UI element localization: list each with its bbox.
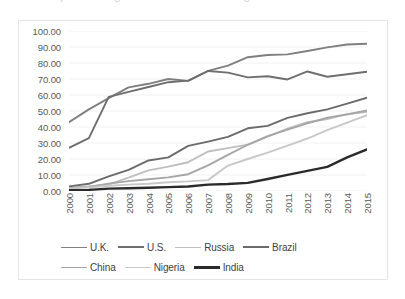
y-axis-tick-label: 100.00 xyxy=(33,26,61,37)
x-axis-tick-label: 2015 xyxy=(362,193,373,214)
legend-label: Russia xyxy=(204,242,234,253)
y-axis-tick-label: 80.00 xyxy=(38,58,61,69)
x-axis-tick-label: 2002 xyxy=(104,193,115,214)
y-axis-tick-label: 30.00 xyxy=(38,138,61,149)
x-axis-tick-label: 2010 xyxy=(263,193,274,214)
legend-item-brazil[interactable]: Brazil xyxy=(243,242,296,253)
chart-container: 0.0010.0020.0030.0040.0050.0060.0070.008… xyxy=(18,20,388,280)
legend-swatch-icon xyxy=(194,266,220,269)
legend-item-russia[interactable]: Russia xyxy=(175,242,234,253)
legend-swatch-icon xyxy=(118,246,144,248)
legend-item-nigeria[interactable]: Nigeria xyxy=(125,262,185,273)
y-axis: 0.0010.0020.0030.0040.0050.0060.0070.008… xyxy=(19,31,65,191)
series-line-russia xyxy=(69,112,367,188)
legend-label: China xyxy=(90,262,116,273)
legend-row: U.K.U.S.RussiaBrazil xyxy=(61,237,371,257)
legend-item-china[interactable]: China xyxy=(61,262,116,273)
x-axis-tick-label: 2003 xyxy=(124,193,135,214)
y-axis-tick-label: 90.00 xyxy=(38,42,61,53)
clipped-title-sliver: percentage of individuals using the inte… xyxy=(0,0,405,12)
y-axis-tick-label: 70.00 xyxy=(38,74,61,85)
x-axis-tick-label: 2007 xyxy=(203,193,214,214)
y-axis-tick-label: 10.00 xyxy=(38,170,61,181)
legend-item-us[interactable]: U.S. xyxy=(118,242,166,253)
legend-label: Nigeria xyxy=(154,262,185,273)
legend-item-india[interactable]: India xyxy=(194,262,244,273)
legend-swatch-icon xyxy=(61,267,87,268)
plot-area xyxy=(69,31,367,191)
x-axis-tick-label: 2009 xyxy=(243,193,254,214)
y-axis-tick-label: 0.00 xyxy=(43,186,61,197)
series-line-nigeria xyxy=(69,115,367,188)
series-line-india xyxy=(69,149,367,190)
x-axis-tick-label: 2008 xyxy=(223,193,234,214)
y-axis-tick-label: 40.00 xyxy=(38,122,61,133)
legend-label: Brazil xyxy=(272,242,296,253)
series-lines xyxy=(69,31,367,191)
x-axis-tick-label: 2006 xyxy=(183,193,194,214)
legend-label: U.S. xyxy=(147,242,166,253)
legend-label: India xyxy=(223,262,244,273)
y-axis-tick-label: 60.00 xyxy=(38,90,61,101)
x-axis-tick-label: 2011 xyxy=(283,193,294,213)
clipped-title-text: percentage of individuals using the inte… xyxy=(60,0,325,2)
legend-item-uk[interactable]: U.K. xyxy=(61,242,109,253)
y-axis-tick-label: 20.00 xyxy=(38,154,61,165)
x-axis-tick-label: 2001 xyxy=(84,193,95,214)
legend-swatch-icon xyxy=(175,247,201,248)
y-axis-tick-label: 50.00 xyxy=(38,106,61,117)
x-axis: 2000200120022003200420052006200720082009… xyxy=(69,193,367,235)
legend-swatch-icon xyxy=(61,247,87,248)
x-axis-tick-label: 2013 xyxy=(322,193,333,214)
legend-label: U.K. xyxy=(90,242,109,253)
x-axis-tick-label: 2012 xyxy=(302,193,313,214)
x-axis-tick-label: 2004 xyxy=(144,193,155,214)
x-axis-tick-label: 2014 xyxy=(342,193,353,214)
legend-swatch-icon xyxy=(243,246,269,248)
legend-row: ChinaNigeriaIndia xyxy=(61,257,371,277)
legend-swatch-icon xyxy=(125,267,151,268)
chart-legend: U.K.U.S.RussiaBrazilChinaNigeriaIndia xyxy=(61,237,371,277)
x-axis-tick-label: 2000 xyxy=(64,193,75,214)
x-axis-tick-label: 2005 xyxy=(163,193,174,214)
